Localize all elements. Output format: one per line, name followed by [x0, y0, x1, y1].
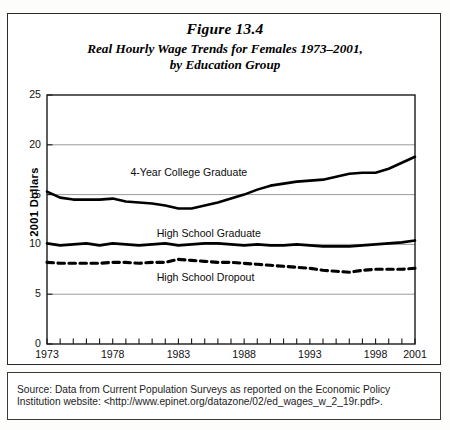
x-axis-tick-label: 1973: [24, 348, 70, 360]
series-annotation-label: High School Graduate: [157, 227, 261, 239]
x-axis-tick-label: 1983: [155, 348, 201, 360]
series-line: [47, 240, 415, 246]
series-annotation-label: High School Dropout: [157, 271, 255, 283]
series-line: [47, 157, 415, 209]
x-axis-tick-label: 1978: [90, 348, 136, 360]
series-annotation-label: 4-Year College Graduate: [130, 166, 247, 178]
figure-screenshot: Figure 13.4 Real Hourly Wage Trends for …: [0, 0, 450, 430]
x-axis-tick-label: 1993: [287, 348, 333, 360]
chart-canvas: [0, 0, 450, 430]
y-axis-tick-label: 5: [19, 287, 41, 299]
y-axis-tick-label: 20: [19, 138, 41, 150]
y-axis-tick-label: 10: [19, 237, 41, 249]
x-axis-tick-label: 2001: [392, 348, 438, 360]
y-axis-tick-label: 15: [19, 188, 41, 200]
y-axis-tick-label: 25: [19, 88, 41, 100]
x-axis-tick-label: 1988: [221, 348, 267, 360]
line-chart: 2001 Dollars 051015202519731978198319881…: [0, 0, 450, 430]
